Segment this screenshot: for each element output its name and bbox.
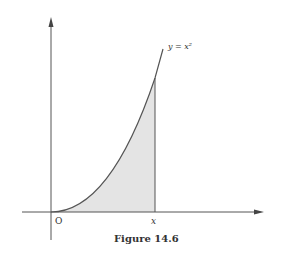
figure-caption: Figure 14.6 [114, 233, 179, 244]
curve-label: y = x² [168, 42, 192, 51]
shaded-area [51, 78, 155, 212]
area-under-parabola-diagram [0, 0, 284, 262]
origin-label: O [55, 216, 62, 226]
x-axis-arrow-icon [254, 210, 264, 215]
y-axis-arrow-icon [49, 17, 54, 27]
figure-14-6: y = x² O x Figure 14.6 [0, 0, 284, 262]
x-label: x [151, 216, 156, 226]
